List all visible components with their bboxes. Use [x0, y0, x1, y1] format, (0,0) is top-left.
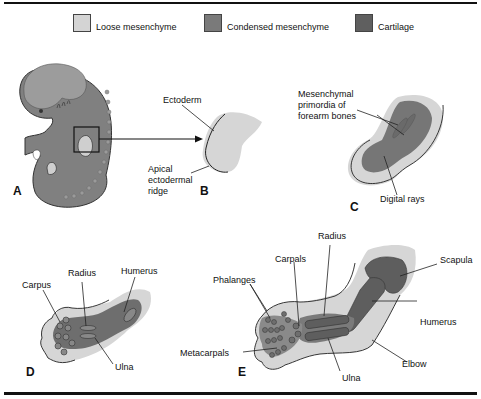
panel-letter-b: B [200, 184, 209, 198]
label-carpus: Carpus [22, 280, 52, 290]
panel-letter-d: D [26, 365, 35, 379]
bottom-rule [4, 392, 477, 395]
panel-letter-c: C [350, 200, 359, 214]
label-radius: Radius [318, 231, 347, 241]
label-ectoderm: Ectoderm [163, 95, 202, 105]
limb-development-figure: A Ectoderm Apical ectodermal ridge B Mes… [0, 0, 481, 399]
panel-c-hand-plate: Mesenchymal primordia of forearm bones D… [298, 89, 443, 214]
label-primordia-line1: Mesenchymal [298, 89, 354, 99]
panel-letter-a: A [13, 184, 22, 198]
panel-e-forelimb: Radius Carpals Phalanges Scapula Humerus… [180, 231, 473, 383]
label-aer-line3: ridge [148, 186, 168, 196]
label-primordia-line3: forearm bones [298, 111, 357, 121]
label-scapula: Scapula [440, 255, 473, 265]
label-radius: Radius [68, 268, 97, 278]
label-phalanges: Phalanges [213, 275, 256, 285]
label-digital-rays: Digital rays [380, 194, 425, 204]
label-elbow: Elbow [402, 359, 427, 369]
label-humerus: Humerus [420, 317, 457, 327]
panel-letter-e: E [238, 365, 246, 379]
panel-b-limb-bud: Ectoderm Apical ectodermal ridge B [148, 95, 262, 198]
label-aer-line1: Apical [148, 164, 173, 174]
eye-icon [39, 109, 43, 113]
arrow-icon [195, 136, 203, 143]
label-carpals: Carpals [275, 254, 307, 264]
panel-a-embryo: A [13, 64, 203, 207]
label-ulna: Ulna [342, 373, 361, 383]
label-metacarpals: Metacarpals [180, 348, 230, 358]
label-ulna: Ulna [115, 362, 134, 372]
label-humerus: Humerus [121, 266, 158, 276]
label-primordia-line2: primordia of [298, 100, 346, 110]
label-aer-line2: ectodermal [148, 175, 193, 185]
panel-d-forelimb: Carpus Radius Humerus Ulna D [22, 266, 158, 379]
